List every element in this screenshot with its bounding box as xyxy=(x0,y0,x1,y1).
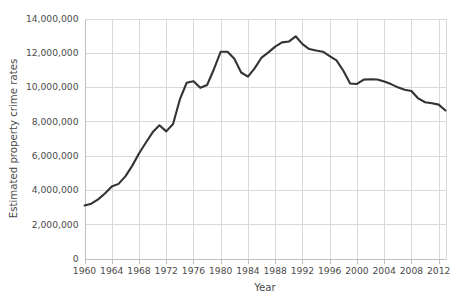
x-tick-label: 1992 xyxy=(291,265,314,276)
x-tick-label: 1964 xyxy=(100,265,124,276)
x-tick-label: 1984 xyxy=(236,265,260,276)
y-tick-label: 8,000,000 xyxy=(32,116,79,127)
x-tick-label: 1996 xyxy=(318,265,342,276)
y-tick-label: 10,000,000 xyxy=(26,81,79,92)
x-tick-label: 2004 xyxy=(373,265,397,276)
y-tick-label: 0 xyxy=(73,253,79,264)
y-tick-label: 14,000,000 xyxy=(26,13,79,24)
x-tick-label: 1976 xyxy=(182,265,206,276)
horizontal-gridlines xyxy=(85,20,446,225)
y-tick-label: 2,000,000 xyxy=(32,219,79,230)
x-tick-label: 1980 xyxy=(209,265,233,276)
property-crime-line-chart: 02,000,0004,000,0006,000,0008,000,00010,… xyxy=(0,0,455,306)
x-tick-label: 1988 xyxy=(264,265,288,276)
y-tick-label: 12,000,000 xyxy=(26,47,79,58)
x-tick-label: 2008 xyxy=(400,265,424,276)
x-axis-title: Year xyxy=(253,282,276,293)
x-tick-label: 1968 xyxy=(127,265,151,276)
x-tickmarks xyxy=(86,260,440,264)
y-tick-label: 6,000,000 xyxy=(32,150,79,161)
series-line-property-crime xyxy=(85,36,446,205)
x-tick-label: 1972 xyxy=(155,265,178,276)
x-axis-tick-labels: 1960196419681972197619801984198819921996… xyxy=(73,265,451,276)
x-tick-label: 2000 xyxy=(345,265,369,276)
vertical-gridlines xyxy=(86,19,440,259)
y-axis-tick-labels: 02,000,0004,000,0006,000,0008,000,00010,… xyxy=(26,13,79,264)
y-axis-title: Estimated property crime rates xyxy=(8,59,19,219)
data-series-group xyxy=(85,36,446,205)
y-tick-label: 4,000,000 xyxy=(32,184,79,195)
x-tick-label: 2012 xyxy=(427,265,450,276)
chart-canvas: 02,000,0004,000,0006,000,0008,000,00010,… xyxy=(0,0,455,306)
x-tick-label: 1960 xyxy=(73,265,97,276)
